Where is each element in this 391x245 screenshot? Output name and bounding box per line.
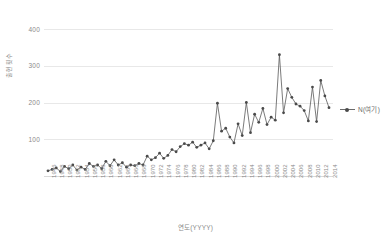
data-point-marker [146,155,149,158]
data-point-marker [220,130,223,133]
data-point-marker [270,116,273,119]
y-axis-tick-label: 400 [0,26,40,33]
x-axis-tick-label: 1994 [249,164,256,178]
data-point-marker [261,107,264,110]
data-point-marker [311,86,314,89]
x-axis-tick-label: 1990 [232,164,239,178]
x-axis-tick-label: 1960 [108,164,115,178]
x-axis-tick-label: 2004 [290,164,297,178]
data-point-marker [171,148,174,151]
data-point-marker [204,142,207,145]
x-axis-tick-label: 1970 [150,164,157,178]
x-axis-ticks: 1946194819501952195419561958196019621964… [44,178,333,218]
y-axis-tick-label: 200 [0,99,40,106]
data-point-marker [104,160,107,163]
x-axis-tick-label: 1998 [265,164,272,178]
x-axis-tick-label: 1992 [241,164,248,178]
data-point-marker [216,102,219,105]
x-axis-tick-label: 1976 [175,164,182,178]
data-point-marker [328,106,331,109]
x-axis-tick-label: 1958 [100,164,107,178]
x-axis-title: 연도(YYYY) [0,224,391,232]
data-point-marker [295,103,298,106]
data-point-marker [253,113,256,116]
data-point-marker [290,96,293,99]
data-point-marker [237,122,240,125]
plot-area [44,18,333,176]
x-axis-tick-label: 1978 [183,164,190,178]
data-point-marker [150,158,153,161]
legend-marker-icon [340,106,355,113]
x-axis-tick-label: 2008 [307,164,314,178]
x-axis-tick-label: 1946 [51,164,58,178]
data-point-marker [233,142,236,145]
y-axis-ticks: 100200300400 [0,18,40,176]
legend-label: N(여기) [358,106,380,113]
data-point-marker [158,152,161,155]
data-point-marker [323,95,326,98]
data-point-marker [47,169,50,172]
data-point-marker [175,150,178,153]
x-axis-tick-label: 2006 [298,164,305,178]
legend: N(여기) [340,106,380,113]
x-axis-tick-label: 2000 [274,164,281,178]
data-point-marker [249,131,252,134]
x-axis-tick-label: 1964 [125,164,132,178]
data-point-marker [278,53,281,56]
x-axis-tick-label: 1968 [141,164,148,178]
x-axis-tick-label: 2012 [323,164,330,178]
data-point-marker [224,127,227,130]
data-point-marker [212,139,215,142]
x-axis-tick-label: 2002 [282,164,289,178]
x-axis-tick-label: 1948 [59,164,66,178]
x-axis-tick-label: 1954 [84,164,91,178]
line-chart: 출현횟수 100200300400 1946194819501952195419… [0,0,391,245]
data-point-marker [228,136,231,139]
data-point-marker [179,145,182,148]
x-axis-tick-label: 1984 [208,164,215,178]
data-point-marker [154,156,157,159]
data-point-marker [303,109,306,112]
x-axis-tick-label: 1966 [133,164,140,178]
x-axis-tick-label: 1956 [92,164,99,178]
data-point-marker [162,157,165,160]
x-axis-tick-label: 1980 [191,164,198,178]
data-point-marker [315,120,318,123]
x-axis-tick-label: 1982 [199,164,206,178]
x-axis-tick-label: 1996 [257,164,264,178]
x-axis-tick-label: 1952 [75,164,82,178]
data-point-marker [166,154,169,157]
data-point-marker [195,146,198,149]
x-axis-tick-label: 1972 [158,164,165,178]
data-series-line [44,18,333,176]
data-point-marker [257,121,260,124]
x-axis-tick-label: 2010 [315,164,322,178]
x-axis-tick-label: 1962 [117,164,124,178]
data-point-marker [307,119,310,122]
x-axis-tick-label: 1950 [67,164,74,178]
y-axis-tick-label: 100 [0,136,40,143]
data-point-marker [183,142,186,145]
data-point-marker [266,123,269,126]
data-point-marker [113,158,116,161]
data-point-marker [282,111,285,114]
data-point-marker [299,105,302,108]
data-point-marker [286,87,289,90]
series-line [48,55,329,172]
data-point-marker [245,101,248,104]
data-point-marker [274,119,277,122]
data-point-marker [241,134,244,137]
data-point-marker [187,144,190,147]
x-axis-tick-label: 1986 [216,164,223,178]
data-point-marker [319,79,322,82]
data-point-marker [191,141,194,144]
y-axis-tick-label: 300 [0,62,40,69]
data-point-marker [208,147,211,150]
data-point-marker [200,144,203,147]
x-axis-tick-label: 2014 [332,164,339,178]
x-axis-tick-label: 1974 [166,164,173,178]
x-axis-tick-label: 1988 [224,164,231,178]
